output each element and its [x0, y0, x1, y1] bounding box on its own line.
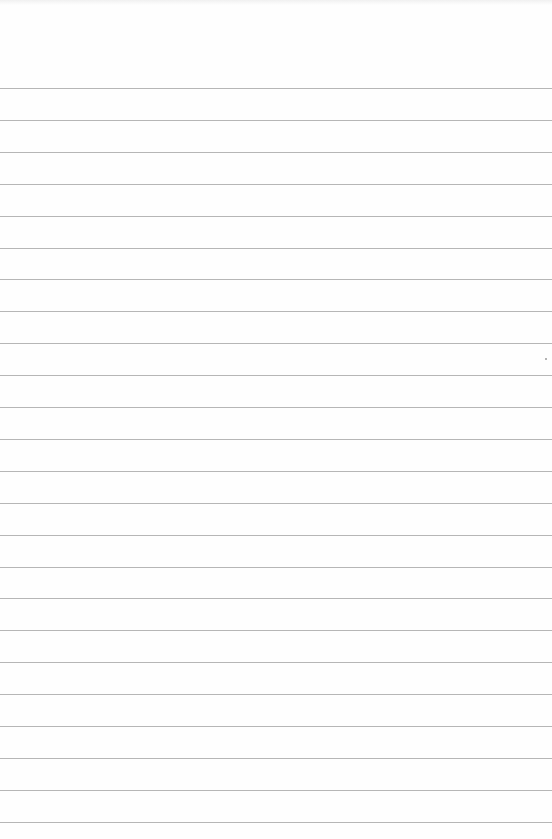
ruled-line: [0, 407, 552, 408]
ruled-line: [0, 662, 552, 663]
ruled-line: [0, 343, 552, 344]
paper-speck: [545, 358, 547, 360]
ruled-line: [0, 311, 552, 312]
ruled-line: [0, 88, 552, 89]
top-edge-shadow: [0, 0, 552, 5]
ruled-line: [0, 279, 552, 280]
ruled-line: [0, 567, 552, 568]
ruled-line: [0, 535, 552, 536]
ruled-line: [0, 822, 552, 823]
ruled-line: [0, 726, 552, 727]
ruled-line: [0, 439, 552, 440]
ruled-line: [0, 375, 552, 376]
ruled-line: [0, 790, 552, 791]
ruled-line: [0, 758, 552, 759]
ruled-line: [0, 503, 552, 504]
ruled-line: [0, 216, 552, 217]
ruled-line: [0, 120, 552, 121]
ruled-line: [0, 694, 552, 695]
ruled-line: [0, 184, 552, 185]
ruled-line: [0, 598, 552, 599]
ruled-line: [0, 471, 552, 472]
ruled-line: [0, 248, 552, 249]
ruled-line: [0, 152, 552, 153]
ruled-line: [0, 630, 552, 631]
lined-paper-sheet: [0, 0, 552, 839]
